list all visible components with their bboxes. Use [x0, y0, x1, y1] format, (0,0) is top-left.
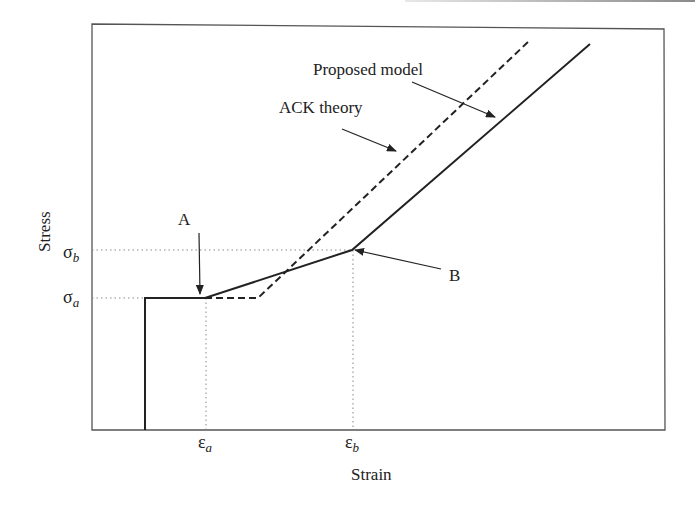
- y-tick-sigma-b: σb: [63, 242, 80, 265]
- arrow-ack: [342, 129, 396, 151]
- y-tick-sigma-a: σa: [63, 287, 80, 310]
- label-proposed-model: Proposed model: [313, 60, 423, 79]
- arrow-a: [199, 233, 200, 294]
- label-ack-theory: ACK theory: [279, 98, 363, 117]
- label-point-a: A: [178, 210, 191, 229]
- arrow-b: [355, 250, 441, 269]
- y-axis-label: Stress: [35, 211, 54, 252]
- stress-strain-diagram: Proposed model ACK theory A B Stress Str…: [0, 0, 695, 508]
- guide-lines: [92, 250, 353, 430]
- proposed-model-curve: [145, 44, 590, 430]
- x-tick-epsilon-a: εa: [198, 432, 213, 455]
- x-axis-label: Strain: [351, 465, 392, 484]
- ack-theory-curve: [205, 42, 528, 298]
- x-tick-epsilon-b: εb: [345, 432, 360, 455]
- label-point-b: B: [449, 266, 460, 285]
